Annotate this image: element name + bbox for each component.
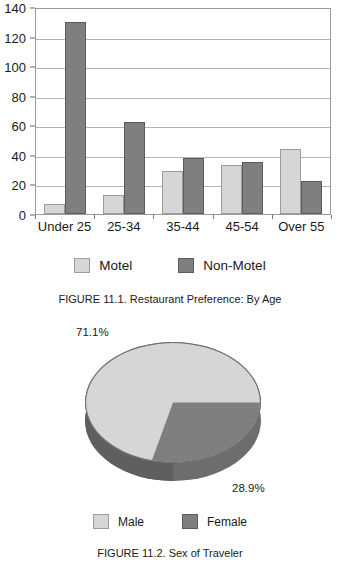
figure-11-2-caption: FIGURE 11.2. Sex of Traveler: [0, 547, 340, 559]
legend-item: Motel: [74, 258, 132, 273]
bar-chart-y-axis: 140120100806040200: [0, 0, 30, 215]
legend-swatch-icon: [182, 514, 198, 529]
y-axis-tick-label: 0: [19, 209, 26, 222]
bar-chart-x-axis-labels: Under 2525-3435-4445-54Over 55: [35, 219, 331, 234]
bar-group: [214, 9, 270, 214]
bar-nonmotel: [242, 162, 263, 214]
legend-swatch-icon: [178, 258, 194, 273]
figure-11-1: 140120100806040200 Under 2525-3435-4445-…: [0, 0, 340, 314]
pie-slice-female: [86, 343, 260, 462]
y-axis-tick-label: 140: [4, 2, 26, 15]
x-axis-tick-mark: [153, 215, 154, 219]
bar-nonmotel: [301, 181, 322, 214]
bar-group: [37, 9, 93, 214]
legend-swatch-icon: [74, 258, 90, 273]
y-axis-tick-label: 100: [4, 61, 26, 74]
bar-chart: 140120100806040200 Under 2525-3435-4445-…: [0, 0, 340, 255]
x-axis-tick-mark: [94, 215, 95, 219]
x-axis-tick-label: Under 25: [36, 219, 92, 234]
pie-top-face: [85, 342, 261, 463]
x-axis-tick-mark: [35, 215, 36, 219]
legend-label: Motel: [99, 258, 132, 273]
legend-swatch-icon: [93, 514, 109, 529]
y-axis-tick-label: 40: [12, 149, 26, 162]
legend-label: Female: [207, 515, 247, 529]
x-axis-tick-label: 25-34: [96, 219, 152, 234]
x-axis-tick-mark: [331, 215, 332, 219]
bar-nonmotel: [124, 122, 145, 214]
bar-nonmotel: [183, 158, 204, 214]
pie-chart: [85, 342, 261, 492]
bar-motel: [103, 195, 124, 214]
legend-item: Non-Motel: [178, 258, 265, 273]
bar-motel: [221, 165, 242, 214]
bar-chart-legend: MotelNon-Motel: [0, 258, 340, 273]
legend-label: Non-Motel: [203, 258, 265, 273]
legend-label: Male: [118, 515, 144, 529]
pie-label-male: 71.1%: [76, 326, 109, 338]
bar-group: [96, 9, 152, 214]
pie-chart-legend: MaleFemale: [0, 514, 340, 529]
bar-group: [155, 9, 211, 214]
x-axis-tick-label: Over 55: [273, 219, 329, 234]
legend-item: Female: [182, 514, 247, 529]
legend-item: Male: [93, 514, 144, 529]
x-axis-tick-label: 35-44: [155, 219, 211, 234]
bar-motel: [44, 204, 65, 214]
x-axis-tick-mark: [272, 215, 273, 219]
bar-groups: [36, 9, 330, 214]
y-axis-tick-label: 80: [12, 90, 26, 103]
bar-nonmotel: [65, 22, 86, 214]
y-axis-tick-label: 120: [4, 31, 26, 44]
y-axis-tick-label: 20: [12, 179, 26, 192]
x-axis-tick-label: 45-54: [214, 219, 270, 234]
y-axis-tick-label: 60: [12, 120, 26, 133]
x-axis-tick-mark: [213, 215, 214, 219]
bar-motel: [280, 149, 301, 214]
bar-motel: [162, 171, 183, 214]
figure-11-2: 71.1% 28.9% MaleFemale: [0, 314, 340, 562]
figure-11-1-caption: FIGURE 11.1. Restaurant Preference: By A…: [0, 293, 340, 305]
bar-group: [273, 9, 329, 214]
bar-chart-plot-area: [35, 8, 331, 215]
pie-label-female: 28.9%: [232, 482, 265, 494]
